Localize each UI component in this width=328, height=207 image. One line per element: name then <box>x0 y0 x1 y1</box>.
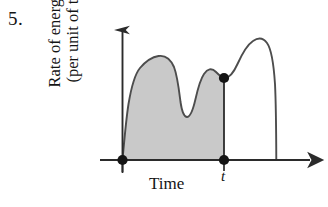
curve-point-at-t-dot <box>219 73 229 83</box>
t-axis-dot <box>219 155 229 165</box>
figure-container: 5. Rate of energy use (per unit of time) <box>0 0 328 207</box>
x-axis-label: Time <box>149 174 184 194</box>
t-marker-label: t <box>221 168 225 185</box>
origin-dot <box>117 155 127 165</box>
